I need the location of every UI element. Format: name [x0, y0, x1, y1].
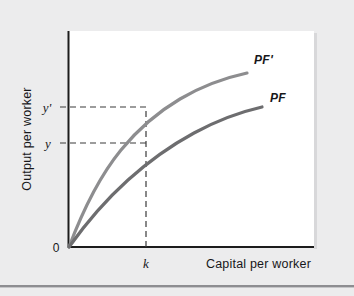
- origin-label: 0: [53, 241, 60, 255]
- figure-container: PF' PF y' y k 0 Output per worker Capita…: [0, 0, 354, 296]
- bottom-divider-rule: [0, 285, 354, 287]
- curve-label-pf-prime: PF': [254, 53, 274, 67]
- x-axis-title: Capital per worker: [206, 257, 311, 271]
- x-tick-label-k: k: [143, 256, 149, 271]
- y-axis-title: Output per worker: [20, 87, 34, 190]
- panel-shadow-right: [314, 33, 317, 249]
- plot-area-background: [68, 31, 314, 247]
- production-function-chart: PF' PF y' y k 0 Output per worker Capita…: [0, 0, 354, 296]
- y-tick-label-y: y: [43, 136, 51, 151]
- y-tick-label-y-prime: y': [41, 100, 52, 115]
- curve-label-pf: PF: [270, 91, 286, 105]
